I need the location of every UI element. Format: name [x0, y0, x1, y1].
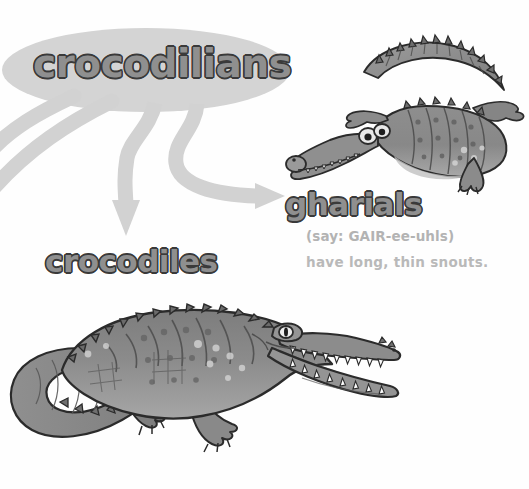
branch-crocodiles: [112, 103, 155, 236]
node-label-crocodiles: crocodiles: [45, 243, 218, 279]
arrow-down-icon: [112, 200, 140, 236]
node-label-gharials: gharials: [285, 186, 422, 222]
page-title: crocodilians: [33, 41, 291, 86]
gharials-pronunciation: (say: GAIR-ee-uhls): [306, 228, 454, 244]
gharials-description: have long, thin snouts.: [306, 254, 488, 270]
branch-offpage-2: [0, 101, 112, 192]
page-title-text: crocodilians: [33, 41, 291, 86]
node-label-gharials-text: gharials: [285, 186, 422, 222]
crocodile-icon: [2, 286, 422, 486]
page-canvas: crocodilians gharials crocodiles (say: G…: [0, 0, 529, 489]
gharial-icon: [268, 30, 529, 195]
node-label-crocodiles-text: crocodiles: [45, 243, 218, 279]
